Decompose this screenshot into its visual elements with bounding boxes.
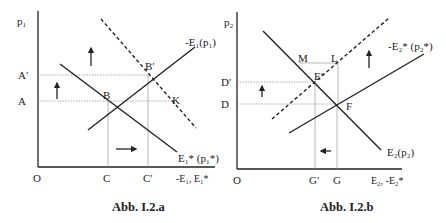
curve-dashed-a [101,19,196,128]
x-tick-label: G [333,174,341,186]
point-label: K [172,94,180,106]
point-label: B [103,89,110,101]
x-tick-label: G′ [309,174,319,186]
figure-caption: Abb. I.2.a [112,200,166,214]
point-label: E′ [314,70,323,82]
curve-label: E₁* (p₁*) [178,152,219,165]
point-label: B′ [145,60,155,72]
y-tick-label: D [221,98,229,110]
origin-label: O [33,172,41,184]
point-label: F [346,100,352,112]
x-axis-label: -E₁, E₁* [176,173,209,184]
figure-b: p₂ D′ D O G′ G E₂, -E₂* M L E′ F -E₂* (p… [221,12,433,214]
curve-label: -E₂* (p₂*) [388,40,433,53]
origin-label: O [233,174,241,186]
y-tick-label: A′ [18,69,28,81]
y-axis-label: p₁ [17,15,27,27]
y-tick-label: D′ [221,76,231,88]
x-tick-label: C [103,172,110,184]
curve-e2 [263,31,381,150]
point-label: L [331,52,338,64]
figure-caption: Abb. I.2.b [320,200,374,214]
x-tick-label: C′ [143,172,153,184]
figure-a: p₁ A′ A O C C′ -E₁, E₁* B B′ K -E₁(p₁) E… [17,11,219,214]
y-tick-label: A [18,95,26,107]
curve-label: -E₁(p₁) [185,36,216,49]
y-axis-label: p₂ [224,16,234,28]
curve-e1-star [60,64,177,152]
diagram-canvas: p₁ A′ A O C C′ -E₁, E₁* B B′ K -E₁(p₁) E… [0,0,446,223]
x-axis-label: E₂, -E₂* [371,175,404,186]
point-label: M [298,52,308,64]
curve-neg-e2-star [289,54,424,133]
curve-label: E₂(p₂) [387,146,415,159]
